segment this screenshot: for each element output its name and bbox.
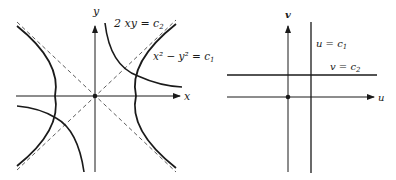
u-axis-label: u [378,92,384,103]
origin-dot [286,95,291,100]
u-eq-c1-label: u = c1 [316,38,347,51]
xy-family-label: 2 xy = c2 [113,17,164,31]
v-eq-c2-label: v = c2 [330,61,361,74]
x-axis-label: x [184,90,191,103]
v-axis-label: v [285,9,291,20]
conformal-map-diagram: y x 2 xy = c2 x² − y² = c1 v u u = c1 v … [0,0,396,180]
y-axis-label: y [92,5,100,18]
hyperbola-family-label: x² − y² = c1 [153,50,215,64]
origin-dot [93,94,98,99]
uv-plane: v u u = c1 v = c2 [227,9,384,173]
xy-plane: y x 2 xy = c2 x² − y² = c1 [16,5,215,172]
